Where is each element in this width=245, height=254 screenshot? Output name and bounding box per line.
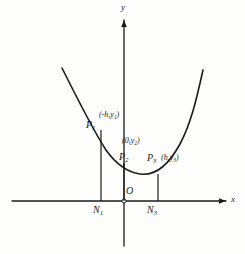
point-label-p2: P2	[119, 152, 129, 162]
point-label-p3: P3	[147, 153, 157, 163]
coord-label-p1: (-h,y1)	[99, 111, 119, 119]
x-axis	[12, 198, 226, 204]
parabola-figure: P1 (-h,y1) P2 (0,y2) P3 (h,y3) N1 N3 O x…	[0, 0, 245, 254]
figure-canvas	[0, 0, 245, 254]
y-axis	[121, 20, 127, 246]
x-axis-label: x	[231, 195, 235, 204]
coord-label-p2: (0,y2)	[122, 137, 140, 145]
point-label-p1: P1	[86, 120, 96, 130]
origin-label: O	[126, 186, 133, 196]
foot-label-n3: N3	[147, 205, 157, 215]
parabola-curve	[62, 68, 203, 174]
y-axis-arrowhead	[121, 20, 127, 27]
coord-label-p3: (h,y3)	[161, 154, 179, 162]
foot-label-n1: N1	[93, 205, 103, 215]
x-axis-arrowhead	[219, 198, 226, 204]
y-axis-label: y	[121, 3, 125, 12]
